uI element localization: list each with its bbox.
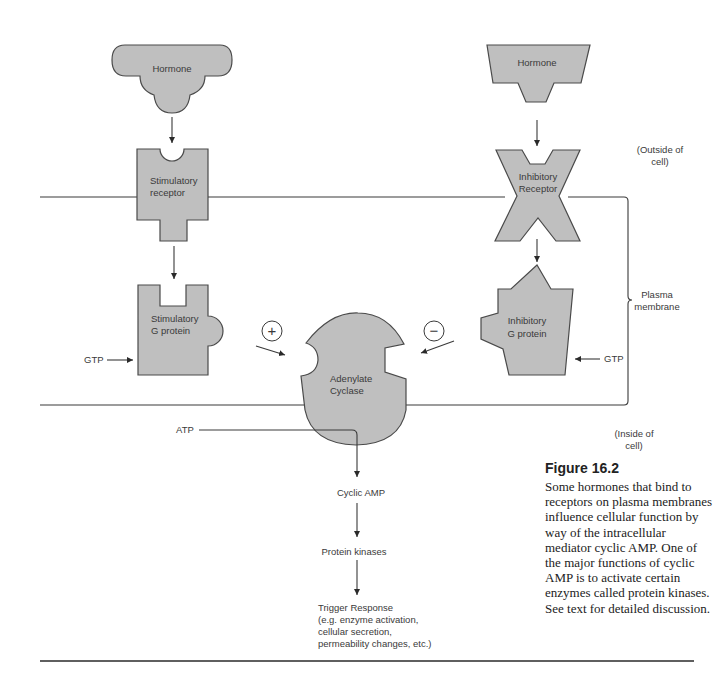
stimulatory-hormone: Hormone <box>112 45 232 113</box>
stimulatory-receptor-label-1: Stimulatory <box>150 175 198 186</box>
atp-label: ATP <box>176 424 194 435</box>
stimulatory-g-protein-label-2: G protein <box>151 325 190 336</box>
figure-caption-text: Some hormones that bind to receptors on … <box>545 479 715 616</box>
adenylate-cyclase: Adenylate Cyclase <box>301 313 406 445</box>
inside-cell-label-1: (Inside of <box>614 428 653 439</box>
plasma-membrane-label-2: membrane <box>634 301 679 312</box>
adenylate-cyclase-label-2: Cyclase <box>330 385 364 396</box>
plasma-membrane-label-1: Plasma <box>641 289 673 300</box>
hormone-label-inhibitory: Hormone <box>517 57 556 68</box>
stimulatory-receptor: Stimulatory receptor <box>137 149 208 241</box>
trigger-response-label-4: permeability changes, etc.) <box>318 638 432 649</box>
inhibitory-g-protein: Inhibitory G protein <box>481 265 573 375</box>
inhibitory-receptor: Inhibitory Receptor <box>495 150 580 241</box>
gtp-label-inhibitory: GTP <box>604 353 624 364</box>
inhibitory-g-protein-label-1: Inhibitory <box>508 315 547 326</box>
figure-caption: Figure 16.2 Some hormones that bind to r… <box>545 460 715 616</box>
cyclic-amp-label: Cyclic AMP <box>337 487 385 498</box>
hormone-label-stimulatory: Hormone <box>152 63 191 74</box>
figure-title: Figure 16.2 <box>545 460 715 476</box>
stimulatory-receptor-label-2: receptor <box>150 187 185 198</box>
arrow-stim-to-cyclase <box>256 346 285 355</box>
hormone-shape-inhibitory <box>487 45 590 102</box>
hormone-shape-stimulatory <box>112 45 232 113</box>
inhibitory-receptor-label-1: Inhibitory <box>519 171 558 182</box>
inhibitory-receptor-label-2: Receptor <box>519 183 558 194</box>
protein-kinases-label: Protein kinases <box>322 546 387 557</box>
minus-sign: − <box>430 322 439 339</box>
membrane-bracket <box>624 197 632 405</box>
plus-sign: + <box>268 322 277 339</box>
outside-cell-label-1: (Outside of <box>637 144 684 155</box>
stimulatory-g-protein: Stimulatory G protein <box>138 285 223 375</box>
trigger-response-label-1: Trigger Response <box>318 602 393 613</box>
inhibitory-g-protein-label-2: G protein <box>507 328 546 339</box>
stimulatory-g-protein-label-1: Stimulatory <box>151 313 199 324</box>
inhibition-sign: − <box>424 321 444 341</box>
gtp-label-stimulatory: GTP <box>84 354 104 365</box>
inhibitory-hormone: Hormone <box>487 45 590 102</box>
inside-cell-label-2: cell) <box>625 440 642 451</box>
arrow-inhib-to-cyclase <box>421 341 454 353</box>
inhibitory-receptor-shape <box>495 150 580 241</box>
adenylate-cyclase-label-1: Adenylate <box>330 373 372 384</box>
trigger-response-label-3: cellular secretion, <box>318 626 392 637</box>
stimulation-sign: + <box>262 321 282 341</box>
outside-cell-label-2: cell) <box>651 156 668 167</box>
trigger-response-label-2: (e.g. enzyme activation, <box>318 614 418 625</box>
